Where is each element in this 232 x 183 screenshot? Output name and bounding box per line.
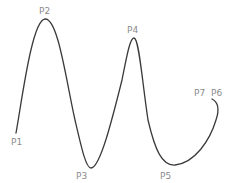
point-label-p1: P1 (11, 137, 22, 147)
spline-diagram: P1 P2 P3 P4 P5 P6 P7 (0, 0, 232, 183)
point-label-p4: P4 (127, 25, 138, 35)
point-label-p5: P5 (160, 171, 171, 181)
point-label-p7: P7 (194, 88, 205, 98)
point-label-p3: P3 (76, 171, 87, 181)
spline-curve (16, 19, 218, 168)
point-label-p6: P6 (211, 88, 222, 98)
point-label-p2: P2 (39, 6, 50, 16)
